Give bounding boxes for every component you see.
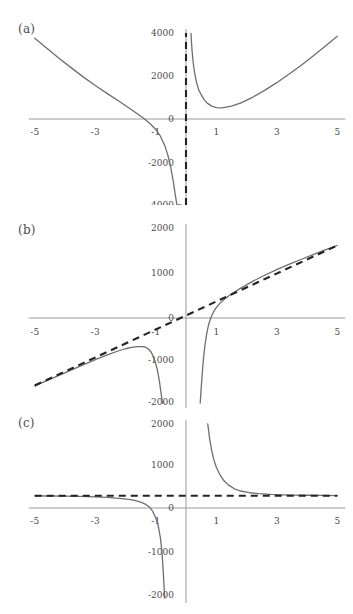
y-tick-label: 1000 [151,268,174,278]
x-tick-label: 1 [213,516,219,526]
x-tick-label: -3 [91,327,100,337]
panel-c-plot: 200010000-1000-2000-5-3-1135 [0,410,353,614]
x-tick-label: 3 [274,327,280,337]
x-tick-label: 5 [334,516,340,526]
y-tick-label: -1000 [148,355,174,365]
x-tick-label: -5 [30,516,39,526]
x-tick-label: 1 [213,327,219,337]
y-tick-label: 2000 [151,223,174,233]
panel-a: (a) 400020000-2000-4000-5-3-1135 [0,0,353,205]
figure-root: (a) 400020000-2000-4000-5-3-1135 (b) 200… [0,0,353,614]
y-tick-label: 2000 [151,419,174,429]
data-curve [208,424,337,496]
data-curve [35,38,181,205]
x-tick-label: -5 [30,127,39,137]
data-curve [200,246,337,404]
panel-a-plot: 400020000-2000-4000-5-3-1135 [0,0,353,205]
x-tick-label: 3 [274,516,280,526]
data-curve [35,347,164,403]
y-tick-label: 1000 [151,460,174,470]
x-tick-label: -3 [91,516,100,526]
data-curve [35,496,165,598]
x-tick-label: -5 [30,327,39,337]
x-tick-label: 3 [274,127,280,137]
y-tick-label: 0 [168,503,174,513]
y-tick-label: -2000 [148,590,174,600]
panel-c: (c) 200010000-1000-2000-5-3-1135 [0,410,353,614]
y-tick-label: -2000 [148,397,174,407]
x-tick-label: 1 [213,127,219,137]
x-tick-label: 5 [334,127,340,137]
panel-b-plot: 200010000-1000-2000-5-3-1135 [0,205,353,410]
x-tick-label: 5 [334,327,340,337]
x-tick-label: -3 [91,127,100,137]
y-tick-label: 0 [168,114,174,124]
panel-b: (b) 200010000-1000-2000-5-3-1135 [0,205,353,410]
x-tick-label: -1 [151,127,160,137]
y-tick-label: 2000 [151,71,174,81]
y-tick-label: 4000 [151,28,174,38]
data-curve [191,33,337,107]
